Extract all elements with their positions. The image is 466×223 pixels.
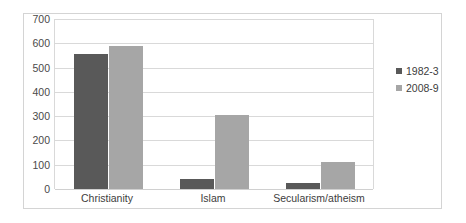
x-tick-label: Islam <box>200 192 225 205</box>
y-tick-label: 400 <box>22 87 50 97</box>
legend-label: 1982-3 <box>406 66 439 77</box>
y-tick-label: 200 <box>22 135 50 145</box>
x-axis-category-labels: Christianity Islam Secularism/atheism <box>54 192 374 208</box>
bar <box>180 179 214 189</box>
gridline <box>55 43 373 44</box>
y-tick-label: 600 <box>22 38 50 48</box>
legend-entry: 1982-3 <box>396 64 460 78</box>
gridline <box>55 19 373 20</box>
x-tick-label: Christianity <box>81 192 133 205</box>
chart-legend: 1982-3 2008-9 <box>396 64 460 98</box>
bar <box>321 162 355 189</box>
y-tick-label: 100 <box>22 160 50 170</box>
bar <box>109 46 143 189</box>
y-tick-label: 300 <box>22 111 50 121</box>
bar-chart-figure: 700 600 500 400 300 200 100 0 Christiani… <box>0 0 466 223</box>
gridline <box>55 189 373 190</box>
legend-label: 2008-9 <box>406 83 439 94</box>
y-axis-tick-labels: 700 600 500 400 300 200 100 0 <box>20 19 50 189</box>
y-tick-label: 500 <box>22 63 50 73</box>
x-tick-label: Secularism/atheism <box>273 192 365 205</box>
bar <box>286 183 320 189</box>
legend-swatch-icon <box>396 85 402 91</box>
plot-area <box>54 19 374 189</box>
bar <box>74 54 108 189</box>
bar <box>215 115 249 189</box>
legend-swatch-icon <box>396 68 402 74</box>
y-tick-label: 700 <box>22 14 50 24</box>
y-tick-label: 0 <box>22 184 50 194</box>
legend-entry: 2008-9 <box>396 81 460 95</box>
